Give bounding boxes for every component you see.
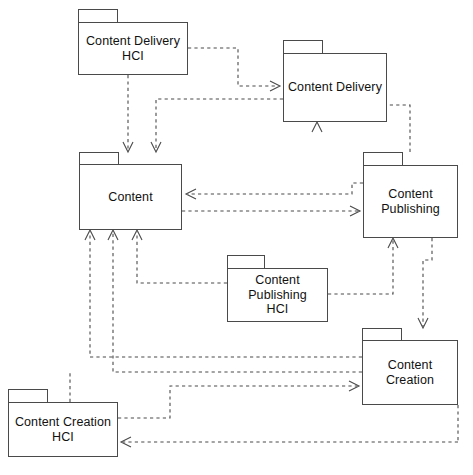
package-content-publishing[interactable]: Content Publishing <box>363 152 458 238</box>
package-body: Content <box>79 164 182 230</box>
package-body: Content Delivery HCI <box>78 22 188 75</box>
package-tab <box>78 9 118 23</box>
dep-cc-to-cchci <box>121 437 458 447</box>
package-diagram: .d { fill:none; stroke:#4a4a4a; stroke-w… <box>0 0 473 475</box>
package-label: Content Creation <box>363 358 457 387</box>
package-body: Content Publishing HCI <box>227 268 328 322</box>
dep-cp-to-cc <box>418 238 432 328</box>
package-tab <box>283 40 323 54</box>
dep-cchci-to-cc <box>118 381 359 418</box>
package-tab <box>8 389 48 403</box>
package-label: Content <box>108 190 152 205</box>
package-content[interactable]: Content <box>79 152 182 230</box>
package-body: Content Creation <box>362 340 458 405</box>
package-content-delivery-hci[interactable]: Content Delivery HCI <box>78 9 188 75</box>
package-content-delivery[interactable]: Content Delivery <box>283 40 387 122</box>
package-label: Content Delivery HCI <box>86 34 180 63</box>
dep-cphci-to-content <box>132 230 227 283</box>
package-body: Content Creation HCI <box>8 402 118 457</box>
package-label: Content Publishing HCI <box>248 273 307 317</box>
dep-cdhci-to-content <box>123 75 133 152</box>
dep-cphci-to-cp <box>328 238 398 294</box>
package-body: Content Publishing <box>363 165 458 238</box>
package-content-publishing-hci[interactable]: Content Publishing HCI <box>227 255 328 322</box>
package-tab <box>227 255 265 269</box>
package-label: Content Delivery <box>288 80 382 95</box>
dep-content-to-cp <box>182 206 360 216</box>
package-body: Content Delivery <box>283 53 387 122</box>
package-content-creation[interactable]: Content Creation <box>362 328 458 405</box>
package-tab <box>363 152 403 166</box>
dep-cp-to-content <box>186 183 363 199</box>
dep-cdhci-to-cd <box>188 48 280 91</box>
package-label: Content Publishing <box>381 187 440 216</box>
package-label: Content Creation HCI <box>15 415 111 444</box>
dep-cd-to-content <box>151 99 283 152</box>
package-content-creation-hci[interactable]: Content Creation HCI <box>8 389 118 457</box>
